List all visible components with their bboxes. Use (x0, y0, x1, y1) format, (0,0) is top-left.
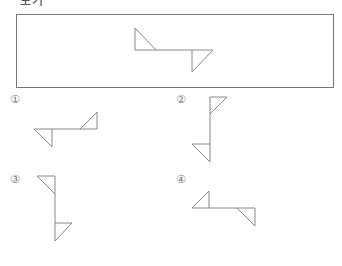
option-4-label[interactable]: ④ (176, 173, 186, 186)
main-figure-segment (192, 50, 213, 72)
option-2-figure[interactable] (192, 97, 227, 162)
option-1-label[interactable]: ① (10, 93, 20, 106)
option-3-label[interactable]: ③ (10, 173, 20, 186)
option-2-label[interactable]: ② (176, 93, 186, 106)
option-1-figure[interactable] (34, 112, 97, 147)
option-figure-segment (34, 129, 52, 147)
option-figure-segment (37, 176, 55, 194)
option-figure-segment (210, 97, 227, 114)
option-figure-segment (55, 223, 72, 241)
option-figure-segment (80, 112, 97, 129)
option-3-figure[interactable] (37, 176, 72, 241)
problem-frame (17, 15, 334, 88)
option-4-figure[interactable] (192, 191, 255, 226)
option-figure-segment (192, 191, 209, 208)
main-figure-segment (135, 28, 156, 50)
option-figure-segment (192, 144, 210, 162)
answer-options (34, 97, 255, 241)
option-figure-segment (237, 208, 255, 226)
diagram-canvas (0, 0, 342, 266)
main-figure (135, 28, 213, 72)
